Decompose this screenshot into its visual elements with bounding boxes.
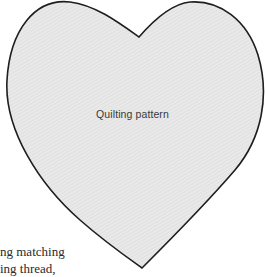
figure-label: Quilting pattern <box>0 108 265 120</box>
quilting-pattern-figure: Quilting pattern <box>0 0 265 277</box>
body-text-line: ng matching <box>0 244 65 259</box>
heart-shape-icon <box>0 0 265 277</box>
body-text: ng matching ing thread, <box>0 243 65 277</box>
body-text-line: ing thread, <box>0 261 56 276</box>
